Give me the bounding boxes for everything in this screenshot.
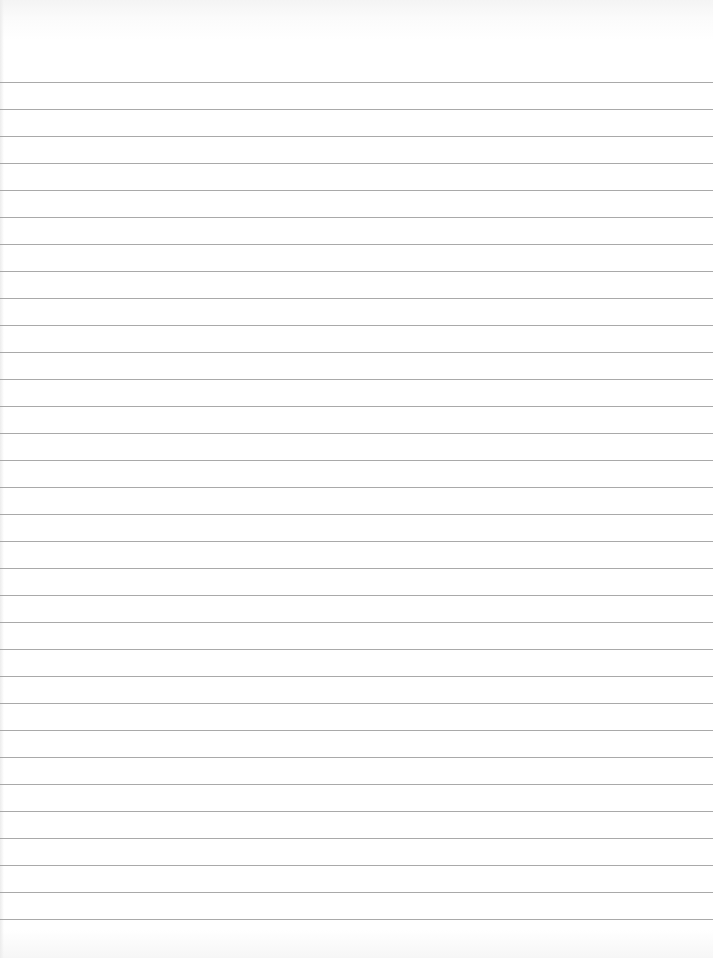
ruled-line (0, 622, 713, 623)
ruled-line (0, 136, 713, 137)
ruled-line (0, 190, 713, 191)
ruled-line (0, 82, 713, 83)
ruled-line (0, 325, 713, 326)
lined-paper-sheet (0, 0, 713, 958)
ruled-line (0, 784, 713, 785)
ruled-line (0, 109, 713, 110)
ruled-line (0, 730, 713, 731)
ruled-line (0, 541, 713, 542)
ruled-line (0, 379, 713, 380)
ruled-line (0, 892, 713, 893)
ruled-line (0, 514, 713, 515)
ruled-line (0, 406, 713, 407)
ruled-line (0, 163, 713, 164)
ruled-line (0, 757, 713, 758)
ruled-line (0, 838, 713, 839)
ruled-line (0, 217, 713, 218)
ruled-line (0, 298, 713, 299)
ruled-line (0, 244, 713, 245)
ruled-line (0, 460, 713, 461)
ruled-line (0, 811, 713, 812)
ruled-line (0, 568, 713, 569)
ruled-line (0, 487, 713, 488)
ruled-line (0, 352, 713, 353)
ruled-line (0, 676, 713, 677)
ruled-line (0, 865, 713, 866)
ruled-line (0, 703, 713, 704)
paper-edge-shadow (0, 0, 4, 958)
ruled-line (0, 919, 713, 920)
ruled-line (0, 649, 713, 650)
ruled-line (0, 271, 713, 272)
ruled-line (0, 433, 713, 434)
ruled-line (0, 595, 713, 596)
